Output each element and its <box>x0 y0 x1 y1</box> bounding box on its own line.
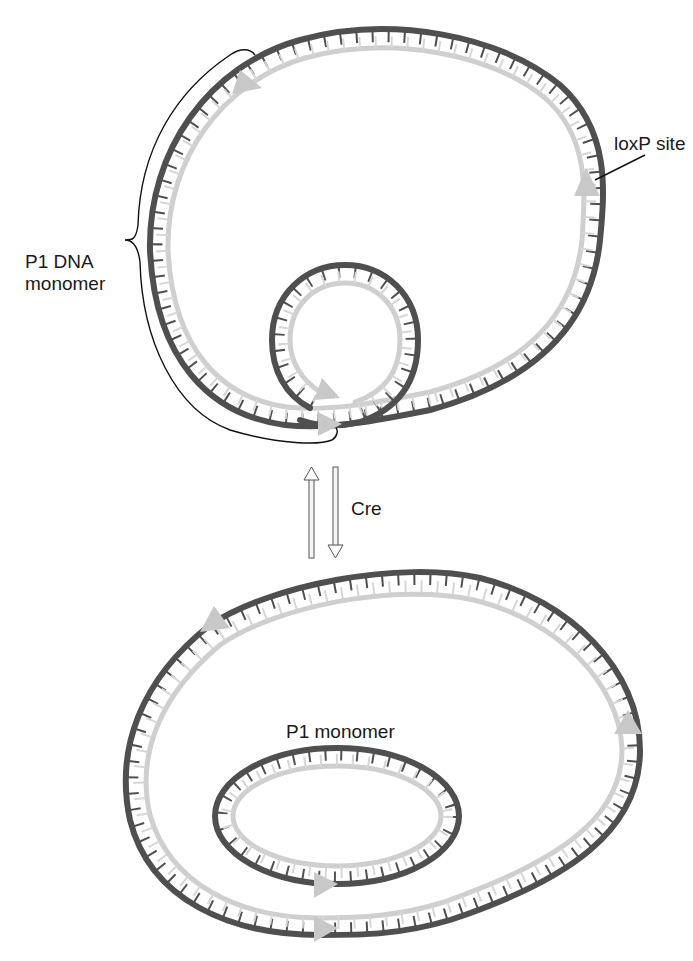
bottom-inner-light-strand <box>233 766 441 866</box>
top-inner-light-ticks <box>284 277 406 409</box>
top-inner-dark-ticks <box>278 271 412 416</box>
bottom-inner-dark-ticks <box>221 754 453 878</box>
p1-monomer-label: P1 monomer <box>286 720 395 744</box>
bottom-monomer-plasmids <box>126 572 642 942</box>
top-dimer-plasmid <box>125 29 645 443</box>
loxp-site-arrow-bottom <box>318 412 342 436</box>
p1-dna-monomer-label-line1: P1 DNA <box>25 250 94 274</box>
cre-enzyme-label: Cre <box>351 497 382 521</box>
loxp-site-label: loxP site <box>614 132 685 156</box>
recombination-diagram <box>0 0 693 961</box>
reverse-arrow-up <box>304 467 319 558</box>
forward-arrow-down <box>328 467 343 558</box>
top-outer-dark-ticks <box>156 36 597 421</box>
p1-dna-monomer-label-line2: monomer <box>25 272 105 296</box>
top-outer-light-ticks <box>162 42 590 414</box>
reversible-reaction-arrows <box>304 467 343 558</box>
